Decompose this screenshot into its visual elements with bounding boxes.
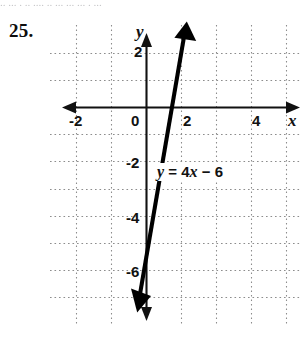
x-axis-label: x — [288, 112, 297, 129]
xtick-label-4: 4 — [252, 113, 260, 128]
equation-equals-coefficient: = 4 — [164, 163, 189, 180]
y-axis-bottom-arrowhead — [141, 307, 152, 321]
line-upper-arrowhead — [174, 22, 196, 42]
ytick-label-minus-4: -4 — [126, 210, 139, 225]
y-axis-label: y — [136, 23, 144, 40]
equation-annotation: y = 4x − 6 — [155, 163, 224, 181]
equation-x-variable: x — [190, 163, 198, 180]
ytick-label-minus-6: -6 — [126, 264, 139, 279]
xtick-label-minus-2: -2 — [69, 113, 82, 128]
ytick-label-2: 2 — [134, 44, 142, 59]
xtick-label-2: 2 — [183, 113, 191, 128]
coordinate-graph: -2 0 2 4 2 -2 -4 -6 y x y = 4x − 6 — [0, 0, 308, 343]
equation-constant: − 6 — [198, 163, 223, 180]
ytick-label-minus-2: -2 — [126, 155, 139, 170]
xtick-label-0: 0 — [131, 113, 139, 128]
graph-canvas — [0, 0, 308, 343]
